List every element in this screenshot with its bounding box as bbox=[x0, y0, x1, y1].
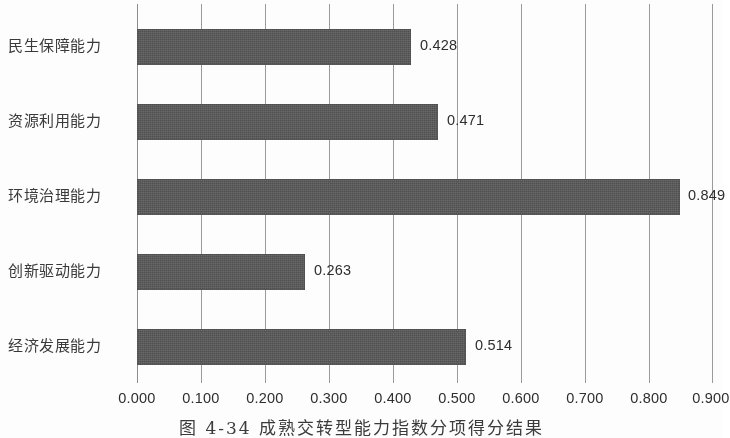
value-label-chuangxin: 0.263 bbox=[314, 262, 351, 278]
xtick-0-600: 0.600 bbox=[502, 390, 539, 406]
value-label-huanjing: 0.849 bbox=[688, 187, 725, 203]
category-label-jingji: 经济发展能力 bbox=[0, 338, 132, 355]
x-axis-tick-labels: 0.000 0.100 0.200 0.300 0.400 0.500 0.60… bbox=[137, 390, 713, 412]
category-label-ziyuan: 资源利用能力 bbox=[0, 113, 132, 130]
figure-caption-text: 图 4-34 成熟交转型能力指数分项得分结果 bbox=[179, 419, 544, 438]
xtick-0-900: 0.900 bbox=[692, 390, 729, 406]
xtick-0-500: 0.500 bbox=[438, 390, 475, 406]
xtick-0-400: 0.400 bbox=[374, 390, 411, 406]
bar-chart: 民生保障能力 资源利用能力 环境治理能力 创新驱动能力 经济发展能力 0.428… bbox=[0, 0, 723, 388]
category-label-chuangxin: 创新驱动能力 bbox=[0, 263, 132, 280]
bar-jingji[interactable] bbox=[137, 329, 466, 365]
xtick-0-800: 0.800 bbox=[630, 390, 667, 406]
bar-ziyuan[interactable] bbox=[137, 104, 438, 140]
xtick-0-100: 0.100 bbox=[182, 390, 219, 406]
xtick-0-200: 0.200 bbox=[246, 390, 283, 406]
plot-area: 0.428 0.471 0.849 0.263 0.514 bbox=[137, 4, 713, 383]
bar-huanjing[interactable] bbox=[137, 179, 680, 215]
bar-minsheng[interactable] bbox=[137, 29, 411, 65]
xtick-0-700: 0.700 bbox=[566, 390, 603, 406]
value-label-minsheng: 0.428 bbox=[420, 37, 457, 53]
value-label-ziyuan: 0.471 bbox=[447, 112, 484, 128]
xtick-0-300: 0.300 bbox=[310, 390, 347, 406]
bar-chuangxin[interactable] bbox=[137, 254, 305, 290]
value-label-jingji: 0.514 bbox=[475, 337, 512, 353]
xtick-0-000: 0.000 bbox=[118, 390, 155, 406]
category-label-huanjing: 环境治理能力 bbox=[0, 188, 132, 205]
figure-caption: 图 4-34 成熟交转型能力指数分项得分结果 bbox=[0, 419, 723, 438]
category-label-minsheng: 民生保障能力 bbox=[0, 38, 132, 55]
